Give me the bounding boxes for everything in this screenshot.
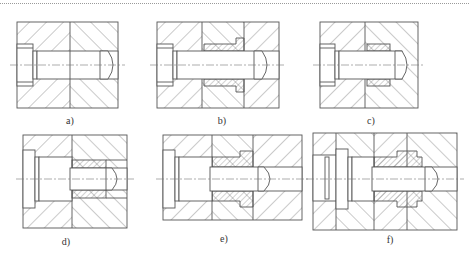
figure-f-label: f) bbox=[387, 234, 394, 245]
figure-c bbox=[313, 22, 425, 108]
figure-c-label: c) bbox=[367, 115, 375, 126]
figure-b bbox=[150, 22, 286, 108]
figure-d bbox=[16, 135, 134, 228]
figure-d-label: d) bbox=[62, 236, 70, 247]
figure-a bbox=[10, 22, 125, 108]
figure-e-label: e) bbox=[220, 233, 228, 244]
figure-b-label: b) bbox=[218, 115, 226, 126]
figure-a-label: a) bbox=[66, 115, 74, 126]
figure-f bbox=[306, 133, 464, 230]
figure-e bbox=[156, 135, 309, 220]
drawing-canvas bbox=[0, 0, 469, 261]
